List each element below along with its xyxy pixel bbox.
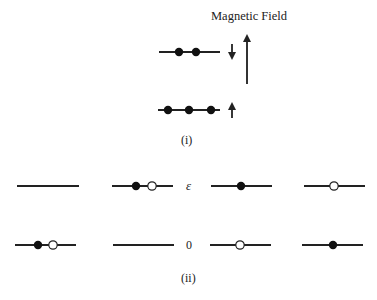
caption-ii: (ii)	[181, 271, 196, 285]
filled-electron-icon	[132, 182, 140, 190]
energy-levels-i	[158, 48, 220, 114]
panel-ii: ε 0 (ii)	[15, 178, 365, 285]
panel-i: Magnetic Field (i)	[158, 9, 288, 147]
filled-electron-icon	[34, 241, 42, 249]
magnetic-field-label: Magnetic Field	[211, 9, 288, 23]
config-2-upper-level	[112, 182, 173, 190]
energy-label-zero: 0	[186, 238, 192, 252]
upper-level	[159, 48, 220, 56]
lower-level	[158, 106, 220, 114]
config-4-upper-level	[304, 182, 365, 190]
open-hole-icon	[49, 241, 57, 249]
config-3-lower-level	[210, 241, 271, 249]
open-hole-icon	[330, 182, 338, 190]
filled-electron-icon	[207, 106, 215, 114]
filled-electron-icon	[237, 182, 245, 190]
filled-electron-icon	[175, 48, 183, 56]
config-4-lower-level	[302, 241, 363, 249]
filled-electron-icon	[192, 48, 200, 56]
filled-electron-icon	[329, 241, 337, 249]
filled-electron-icon	[185, 106, 193, 114]
diagram-svg: Magnetic Field (i) ε 0 (ii)	[0, 0, 377, 300]
config-1-lower-level	[15, 241, 76, 249]
open-hole-icon	[236, 241, 244, 249]
energy-label-epsilon: ε	[186, 178, 192, 193]
diagram-canvas: Magnetic Field (i) ε 0 (ii)	[0, 0, 377, 300]
config-3-upper-level	[211, 182, 272, 190]
filled-electron-icon	[164, 106, 172, 114]
caption-i: (i)	[181, 133, 192, 147]
open-hole-icon	[148, 182, 156, 190]
